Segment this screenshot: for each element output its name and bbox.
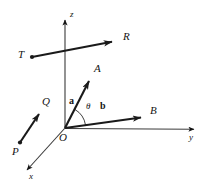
axis-y-line (65, 129, 194, 130)
vector-a-label: a (69, 96, 74, 106)
point-b-label: B (150, 105, 157, 116)
vector-b-line (65, 118, 141, 129)
vector-tr-line (32, 42, 112, 57)
diagram-canvas (0, 0, 214, 189)
point-r-label: R (123, 31, 130, 42)
point-q-label: Q (42, 96, 50, 107)
origin-label: O (59, 132, 67, 143)
axis-label-z: z (70, 10, 74, 19)
point-a-label: A (94, 63, 101, 74)
axis-label-y: y (189, 133, 193, 142)
vector-pq-line (20, 114, 39, 143)
vector-b-label: b (100, 101, 106, 111)
point-p-label: P (12, 146, 19, 157)
axis-label-x: x (29, 172, 33, 181)
angle-theta-arc (75, 110, 86, 126)
point-t-label: T (18, 49, 24, 60)
angle-theta-label: θ (86, 102, 90, 111)
vector-diagram-figure: z y x O a A b B P Q T R θ (0, 0, 214, 189)
